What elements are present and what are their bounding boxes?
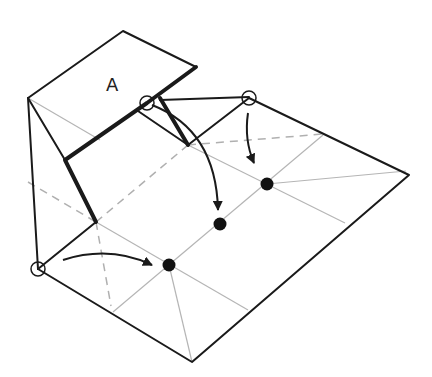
- fold-diagram: A: [0, 0, 432, 377]
- target-points: [163, 178, 274, 272]
- hidden-lines: [28, 134, 323, 306]
- arrow-left-to-target-1: [63, 254, 152, 265]
- thick-edge-pocket: [160, 98, 188, 145]
- dashed-line: [96, 222, 111, 306]
- left-lower-edge: [38, 222, 96, 269]
- flap-label: A: [106, 74, 119, 95]
- target-point-1: [163, 259, 176, 272]
- dashed-line: [188, 134, 323, 145]
- top-connector: [160, 97, 249, 100]
- dashed-line: [96, 145, 188, 222]
- target-point-3: [261, 178, 274, 191]
- inner-left-edge: [28, 98, 65, 160]
- arrow-top-middle-to-target-2: [152, 105, 218, 210]
- pocket-edge: [138, 111, 188, 145]
- fold-arrows: [63, 105, 254, 265]
- crease-line: [28, 98, 100, 140]
- crease-line: [267, 171, 406, 184]
- thick-edge-main: [65, 67, 196, 222]
- arrow-top-right-to-target-3: [247, 113, 254, 163]
- raw-edges: [65, 67, 196, 222]
- bottom-edge: [38, 98, 409, 362]
- target-point-2: [214, 218, 227, 231]
- crease-line: [169, 265, 192, 362]
